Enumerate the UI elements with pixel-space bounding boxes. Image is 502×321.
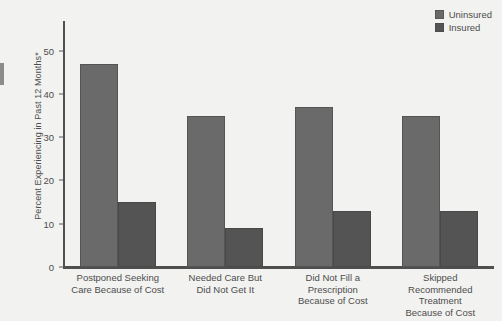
bar-uninsured-2	[295, 107, 333, 267]
bar-groups	[64, 29, 494, 267]
bar-insured-3	[440, 211, 478, 267]
legend-swatch-icon	[435, 23, 444, 32]
bar-insured-0	[118, 202, 156, 267]
category-label-0: Postponed SeekingCare Because of Cost	[64, 272, 172, 318]
bar-group	[172, 29, 280, 267]
x-axis-category-labels: Postponed SeekingCare Because of CostNee…	[64, 272, 494, 318]
bar-uninsured-0	[80, 64, 118, 267]
category-label-line: Postponed Seeking	[68, 272, 168, 284]
bar-uninsured-1	[187, 116, 225, 267]
category-label-line: Because of Cost	[391, 307, 491, 319]
bar-group	[387, 29, 495, 267]
legend-label: Uninsured	[449, 9, 492, 20]
bar-chart: Percent Experiencing in Past 12 Months* …	[0, 0, 502, 321]
legend-item-insured[interactable]: Insured	[435, 22, 492, 33]
page-edge-artifact	[0, 63, 4, 85]
category-label-line: Needed Care But	[176, 272, 276, 284]
bar-uninsured-3	[402, 116, 440, 267]
bar-group	[64, 29, 172, 267]
y-tick-label-50: 50	[43, 45, 54, 56]
bar-group	[279, 29, 387, 267]
category-label-line: Treatment	[391, 295, 491, 307]
category-label-line: Recommended	[391, 284, 491, 296]
category-label-3: SkippedRecommendedTreatmentBecause of Co…	[387, 272, 495, 318]
y-axis-tick-labels: 01020304050	[30, 0, 64, 321]
legend-item-uninsured[interactable]: Uninsured	[435, 9, 492, 20]
legend-label: Insured	[449, 22, 481, 33]
legend-swatch-icon	[435, 10, 444, 19]
plot-area	[64, 29, 494, 267]
category-label-2: Did Not Fill aPrescriptionBecause of Cos…	[279, 272, 387, 318]
y-tick-label-20: 20	[43, 175, 54, 186]
y-tick-label-30: 30	[43, 132, 54, 143]
category-label-line: Did Not Fill a	[283, 272, 383, 284]
category-label-line: Because of Cost	[283, 295, 383, 307]
bar-insured-2	[333, 211, 371, 267]
category-label-line: Care Because of Cost	[68, 284, 168, 296]
category-label-line: Prescription	[283, 284, 383, 296]
category-label-line: Did Not Get It	[176, 284, 276, 296]
bar-insured-1	[225, 228, 263, 267]
y-tick-label-0: 0	[49, 262, 54, 273]
legend: UninsuredInsured	[435, 9, 492, 33]
y-tick-label-10: 10	[43, 218, 54, 229]
y-tick-label-40: 40	[43, 88, 54, 99]
category-label-1: Needed Care ButDid Not Get It	[172, 272, 280, 318]
category-label-line: Skipped	[391, 272, 491, 284]
